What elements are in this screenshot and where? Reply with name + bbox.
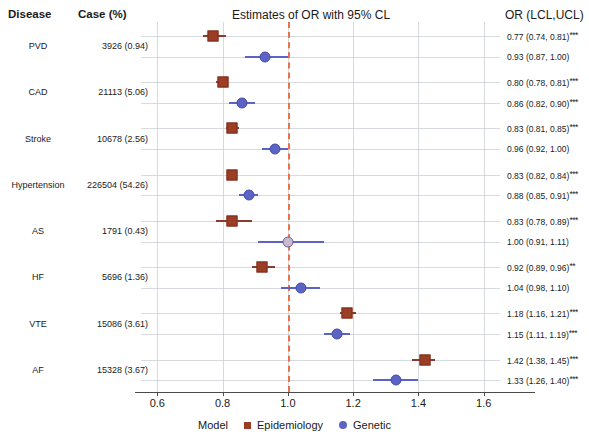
column-header-or: OR (LCL,UCL) [505,8,584,22]
reference-line [288,22,290,392]
horizontal-gridline [141,334,500,335]
axis-tick-label: 1.6 [476,397,491,409]
axis-tick-label: 0.8 [215,397,230,409]
case-count-label: 15086 (3.61) [97,319,148,329]
disease-label: PVD [29,41,48,51]
or-value-label: 1.04 (0.98, 1.10) [507,283,569,293]
axis-tick-label: 0.6 [150,397,165,409]
or-value-label: 0.83 (0.82, 0.84)*** [507,169,578,181]
or-value-label: 0.80 (0.78, 0.81)*** [507,76,578,88]
or-value-label: 0.92 (0.89, 0.96)** [507,261,575,273]
or-value-label: 0.83 (0.81, 0.85)*** [507,122,578,134]
estimate-marker [207,30,218,41]
axis-tick [223,392,224,396]
vertical-gridline [353,22,354,392]
axis-tick [157,392,158,396]
estimate-marker [260,51,271,62]
case-count-label: 3926 (0.94) [102,41,148,51]
estimate-marker [227,123,238,134]
estimate-marker [256,262,267,273]
horizontal-gridline [141,57,500,58]
case-count-label: 1791 (0.43) [102,226,148,236]
disease-label: CAD [28,87,47,97]
or-value-label: 1.42 (1.38, 1.45)*** [507,354,578,366]
disease-label: VTE [29,319,47,329]
axis-tick-label: 1.0 [280,397,295,409]
estimate-marker [390,375,401,386]
horizontal-gridline [141,380,500,381]
or-value-label: 0.88 (0.85, 0.91)*** [507,189,578,201]
horizontal-gridline [141,103,500,104]
axis-tick [353,392,354,396]
horizontal-gridline [141,221,500,222]
or-value-label: 0.77 (0.74, 0.81)*** [507,30,578,42]
estimate-marker [227,169,238,180]
horizontal-gridline [141,149,500,150]
plot-panel [141,22,500,392]
vertical-gridline [484,22,485,392]
estimate-marker [341,308,352,319]
estimate-marker [295,282,306,293]
page-title: Estimates of OR with 95% CL [232,8,390,22]
estimate-marker [419,354,430,365]
horizontal-gridline [141,195,500,196]
axis-tick-label: 1.4 [411,397,426,409]
or-value-label: 0.96 (0.92, 1.00) [507,144,569,154]
disease-label: AS [32,226,44,236]
disease-label: AF [32,365,44,375]
legend-title: Model [198,419,228,431]
horizontal-gridline [141,313,500,314]
legend-label-genetic: Genetic [353,419,391,431]
axis-tick [418,392,419,396]
horizontal-gridline [141,82,500,83]
axis-tick-label: 1.2 [345,397,360,409]
estimate-marker [269,144,280,155]
horizontal-gridline [141,128,500,129]
or-value-label: 1.33 (1.26, 1.40)*** [507,374,578,386]
or-value-label: 1.18 (1.16, 1.21)*** [507,307,578,319]
x-axis-line [135,392,535,393]
column-header-case: Case (%) [78,8,127,20]
legend-swatch-epidemiology [244,422,251,429]
estimate-marker [237,97,248,108]
axis-tick [484,392,485,396]
estimate-marker [217,77,228,88]
horizontal-gridline [141,288,500,289]
legend: Model Epidemiology Genetic [0,419,589,431]
legend-swatch-genetic [339,421,347,429]
horizontal-gridline [141,267,500,268]
case-count-label: 15328 (3.67) [97,365,148,375]
case-count-label: 21113 (5.06) [98,87,148,97]
estimate-marker [227,215,238,226]
disease-label: Hypertension [11,180,64,190]
disease-label: HF [32,272,44,282]
vertical-gridline [418,22,419,392]
or-value-label: 1.15 (1.11, 1.19)*** [507,328,577,340]
case-count-label: 226504 (54.26) [87,180,148,190]
or-value-label: 0.86 (0.82, 0.90)*** [507,97,578,109]
column-header-disease: Disease [8,8,51,20]
or-value-label: 0.83 (0.78, 0.89)*** [507,215,578,227]
axis-tick [288,392,289,396]
disease-label: Stroke [25,134,51,144]
horizontal-gridline [141,360,500,361]
case-count-label: 10678 (2.56) [97,134,148,144]
legend-label-epidemiology: Epidemiology [257,419,323,431]
estimate-marker [243,190,254,201]
vertical-gridline [157,22,158,392]
or-value-label: 1.00 (0.91, 1.11) [507,237,569,247]
or-value-label: 0.93 (0.87, 1.00) [507,52,569,62]
estimate-marker [282,236,293,247]
case-count-label: 5696 (1.36) [102,272,148,282]
forest-plot: Disease Case (%) Estimates of OR with 95… [0,0,589,444]
horizontal-gridline [141,36,500,37]
estimate-marker [331,329,342,340]
horizontal-gridline [141,175,500,176]
